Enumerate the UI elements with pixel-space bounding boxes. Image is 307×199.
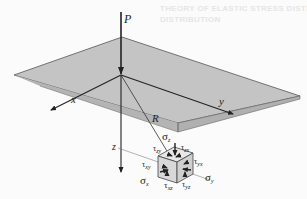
sigma-z-label: σz [162,131,170,143]
tau-zx-label: τzx [181,144,189,153]
z-axis-label: z [112,142,116,152]
tau-zy-label: τzy [153,145,161,154]
tau-yx-label: τyx [194,158,203,167]
sigma-y-arrow [183,169,191,170]
y-axis-label: y [219,96,224,107]
tau-xy-label: τxy [142,161,151,170]
tau-xz-label: τxz [164,181,173,191]
sigma-y-label: σy [205,172,214,184]
load-label: P [124,13,131,25]
x-axis-label: x [71,94,76,105]
sigma-x-label: σx [140,175,149,187]
tau-yz-label: τyz [182,181,190,190]
radius-label: R [152,113,159,124]
half-space-diagram [0,0,307,199]
